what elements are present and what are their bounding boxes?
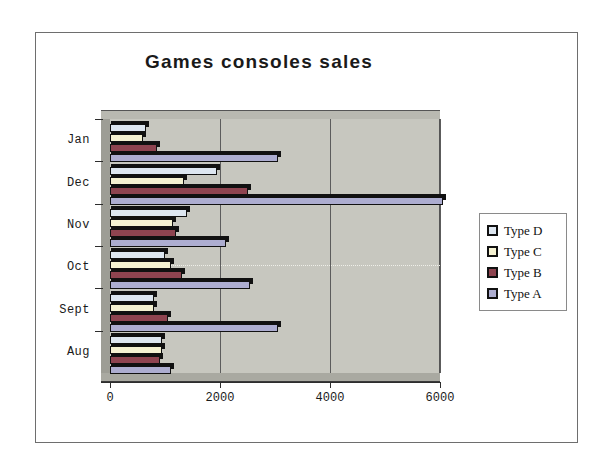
category-tick-oct <box>95 246 103 247</box>
plot-area: JanDecNovOctSeptAug 0200040006000 <box>110 119 440 373</box>
legend-item-type-c[interactable]: Type C <box>487 241 560 262</box>
legend-swatch-icon <box>487 288 498 299</box>
category-tick-nov <box>95 204 103 205</box>
legend-swatch-icon <box>487 225 498 236</box>
legend-label: Type A <box>504 286 542 302</box>
gridline-6000 <box>440 119 441 373</box>
x-tick-4000 <box>330 382 331 388</box>
category-tick-aug <box>95 331 103 332</box>
bar-dec-type-a <box>110 197 443 205</box>
value-axis-line <box>101 382 441 383</box>
x-tick-label-0: 0 <box>106 391 113 405</box>
category-label-sept: Sept <box>59 303 90 317</box>
bar-jan-type-a <box>110 154 278 162</box>
category-tick-jan <box>95 119 103 120</box>
plot-floor <box>101 373 440 382</box>
x-tick-0 <box>110 382 111 388</box>
legend-label: Type D <box>504 223 542 239</box>
bar-nov-type-a <box>110 239 226 247</box>
legend-item-type-d[interactable]: Type D <box>487 220 560 241</box>
x-tick-label-2000: 2000 <box>206 391 235 405</box>
legend-swatch-icon <box>487 246 498 257</box>
legend-swatch-icon <box>487 267 498 278</box>
chart-frame: Games consoles sales JanDecNovOctSeptAug… <box>35 32 578 443</box>
category-label-dec: Dec <box>67 176 90 190</box>
legend-label: Type B <box>504 265 542 281</box>
category-label-nov: Nov <box>67 218 90 232</box>
bar-aug-type-a <box>110 366 171 374</box>
legend-label: Type C <box>504 244 542 260</box>
bar-oct-type-a <box>110 281 250 289</box>
category-tick-sept <box>95 288 103 289</box>
category-label-aug: Aug <box>67 345 90 359</box>
bar-sept-type-a <box>110 324 278 332</box>
plot-wall-top-bevel <box>101 110 440 119</box>
legend-item-type-b[interactable]: Type B <box>487 262 560 283</box>
category-tick-dec <box>95 161 103 162</box>
category-label-oct: Oct <box>67 260 90 274</box>
x-tick-2000 <box>220 382 221 388</box>
x-tick-label-6000: 6000 <box>426 391 455 405</box>
category-label-jan: Jan <box>67 133 90 147</box>
chart-legend: Type DType CType BType A <box>479 213 567 311</box>
gridline-4000 <box>330 119 331 373</box>
x-tick-6000 <box>440 382 441 388</box>
chart-title: Games consoles sales <box>36 51 577 73</box>
legend-item-type-a[interactable]: Type A <box>487 283 560 304</box>
x-tick-label-4000: 4000 <box>316 391 345 405</box>
